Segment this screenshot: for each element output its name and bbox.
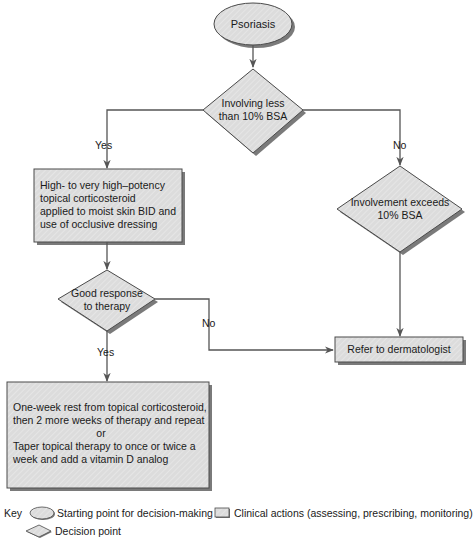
edge-bsa-no <box>303 110 400 165</box>
action-maintenance-line-4: Taper topical therapy to once or twice a <box>13 440 209 453</box>
key-box-icon <box>215 508 230 518</box>
action-maintenance-line-1: One-week rest from topical corticosteroi… <box>13 401 209 414</box>
action-topical-line-1: High- to very high–potency <box>40 179 176 192</box>
edge-label-no-1: No <box>393 139 406 151</box>
action-topical-line-2: topical corticosteroid <box>40 192 176 205</box>
key-box-label: Clinical actions (assessing, prescribing… <box>234 507 473 519</box>
edge-bsa-yes <box>107 110 203 168</box>
action-maintenance-line-3: or <box>13 427 209 440</box>
action-maintenance-line-2: then 2 more weeks of therapy and repeat <box>13 414 209 427</box>
edge-label-no-2: No <box>202 317 215 329</box>
decision-exceeds-label: Involvement exceeds 10% BSA <box>338 194 462 224</box>
action-maintenance-label: One-week rest from topical corticosteroi… <box>13 398 209 468</box>
action-maintenance-line-5: week and add a vitamin D analog <box>13 453 209 466</box>
edge-label-yes-2: Yes <box>97 346 114 358</box>
decision-bsa-line-2: than 10% BSA <box>219 110 287 123</box>
decision-bsa-line-1: Involving less <box>219 97 287 110</box>
key-diamond-icon <box>26 525 52 538</box>
decision-response-line-1: Good response <box>71 287 143 300</box>
action-refer-label: Refer to dermatologist <box>335 337 463 362</box>
key-oval-icon <box>30 507 55 520</box>
decision-bsa-label: Involving less than 10% BSA <box>210 95 296 125</box>
decision-response-label: Good response to therapy <box>62 285 152 315</box>
edge-response-no <box>155 299 333 350</box>
key-diamond-label: Decision point <box>55 525 121 537</box>
edge-label-yes-1: Yes <box>95 139 112 151</box>
action-topical-label: High- to very high–potency topical corti… <box>40 175 180 235</box>
action-topical-line-4: use of occlusive dressing <box>40 218 176 231</box>
key-title: Key <box>4 507 22 519</box>
action-topical-line-3: applied to moist skin BID and <box>40 205 176 218</box>
decision-exceeds-line-2: 10% BSA <box>351 209 450 222</box>
start-label: Psoriasis <box>214 4 292 44</box>
key-oval-label: Starting point for decision-making <box>57 507 213 519</box>
decision-response-line-2: to therapy <box>71 300 143 313</box>
decision-exceeds-line-1: Involvement exceeds <box>351 196 450 209</box>
